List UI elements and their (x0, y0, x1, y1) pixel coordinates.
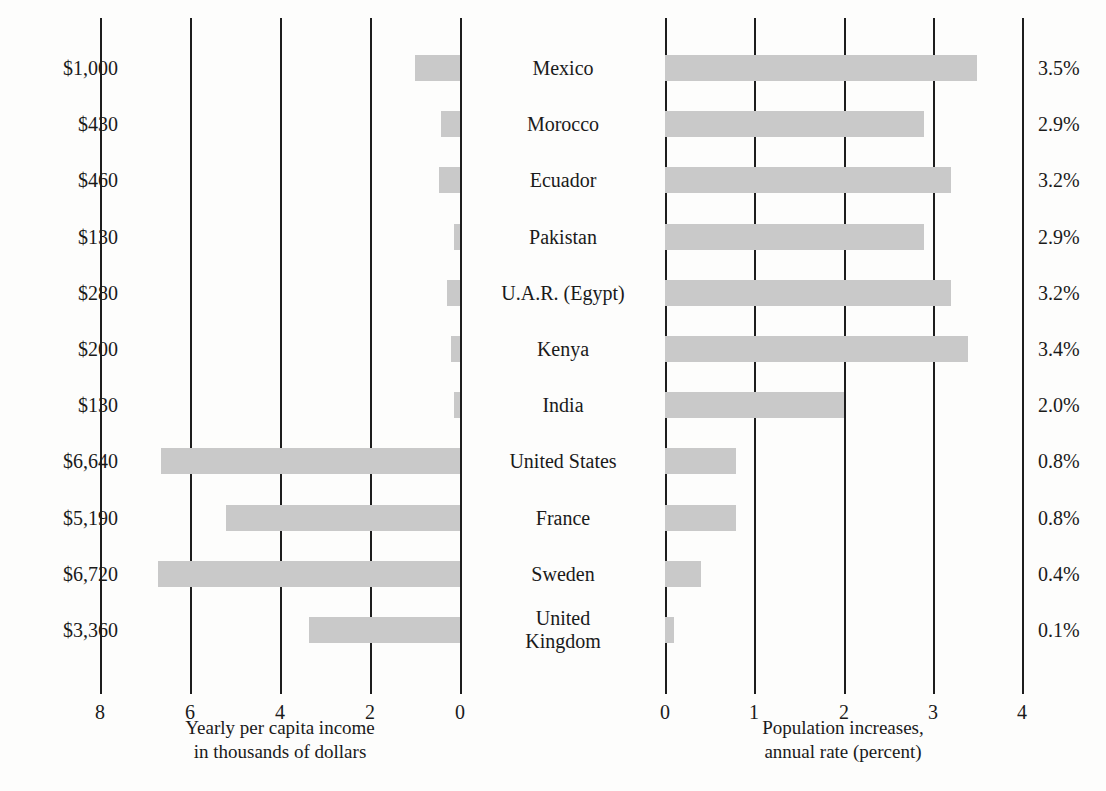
tick-income-2 (370, 672, 372, 694)
income-value-mexico: $1,000 (0, 58, 118, 78)
population-value-u-a-r-egypt: 3.2% (1038, 283, 1080, 303)
bar-income-united-states (161, 448, 460, 474)
chart-container: 8642001234$1,0003.5%Mexico$4302.9%Morocc… (0, 0, 1106, 791)
population-value-france: 0.8% (1038, 508, 1080, 528)
population-value-india: 2.0% (1038, 395, 1080, 415)
bar-population-pakistan (665, 224, 924, 250)
country-label-india: India (433, 394, 693, 417)
tick-population-0 (665, 672, 667, 694)
population-value-ecuador: 3.2% (1038, 170, 1080, 190)
income-value-u-a-r-egypt: $280 (0, 283, 118, 303)
country-label-sweden: Sweden (433, 563, 693, 586)
country-label-u-a-r-egypt: U.A.R. (Egypt) (433, 282, 693, 305)
income-value-france: $5,190 (0, 508, 118, 528)
bar-population-u-a-r-egypt (665, 280, 951, 306)
country-label-pakistan: Pakistan (433, 226, 693, 249)
tick-population-2 (844, 672, 846, 694)
tick-income-6 (190, 672, 192, 694)
tick-income-8 (100, 672, 102, 694)
right-axis-caption: Population increases, annual rate (perce… (633, 716, 1053, 764)
country-label-ecuador: Ecuador (433, 169, 693, 192)
bar-income-sweden (158, 561, 460, 587)
tick-income-0 (460, 672, 462, 694)
income-value-sweden: $6,720 (0, 564, 118, 584)
income-value-morocco: $430 (0, 114, 118, 134)
income-value-united-states: $6,640 (0, 451, 118, 471)
bar-income-france (226, 505, 460, 531)
income-value-united-kingdom: $3,360 (0, 620, 118, 640)
gridline-population-4 (1022, 18, 1024, 672)
country-label-france: France (433, 507, 693, 530)
bar-population-morocco (665, 111, 924, 137)
population-value-sweden: 0.4% (1038, 564, 1080, 584)
income-value-ecuador: $460 (0, 170, 118, 190)
left-axis-caption: Yearly per capita income in thousands of… (70, 716, 490, 764)
country-label-mexico: Mexico (433, 57, 693, 80)
tick-population-3 (933, 672, 935, 694)
population-value-mexico: 3.5% (1038, 58, 1080, 78)
country-label-united-kingdom: United Kingdom (433, 607, 693, 653)
population-value-pakistan: 2.9% (1038, 227, 1080, 247)
income-value-pakistan: $130 (0, 227, 118, 247)
population-value-united-kingdom: 0.1% (1038, 620, 1080, 640)
population-value-kenya: 3.4% (1038, 339, 1080, 359)
bar-population-kenya (665, 336, 968, 362)
country-label-united-states: United States (433, 450, 693, 473)
bar-population-mexico (665, 55, 977, 81)
bar-population-ecuador (665, 167, 951, 193)
population-value-united-states: 0.8% (1038, 451, 1080, 471)
country-label-morocco: Morocco (433, 113, 693, 136)
country-label-kenya: Kenya (433, 338, 693, 361)
income-value-india: $130 (0, 395, 118, 415)
tick-population-1 (754, 672, 756, 694)
tick-income-4 (280, 672, 282, 694)
income-value-kenya: $200 (0, 339, 118, 359)
tick-population-4 (1022, 672, 1024, 694)
population-value-morocco: 2.9% (1038, 114, 1080, 134)
